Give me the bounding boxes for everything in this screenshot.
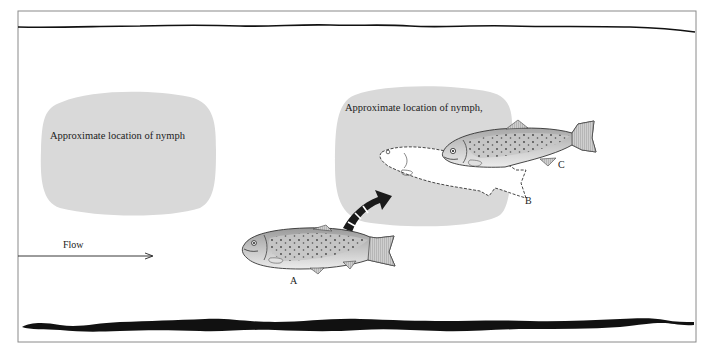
fish-a-label: A xyxy=(290,276,297,286)
trout-feeding-diagram: Approximate location of nymph Approximat… xyxy=(0,0,711,358)
fish-c-label: C xyxy=(558,160,565,170)
nymph-zone-left xyxy=(41,92,216,216)
nymph-zone-left-label: Approximate location of nymph xyxy=(50,131,185,142)
nymph-zone-right-label: Approximate location of nymph, xyxy=(345,103,483,114)
fish-b-label: B xyxy=(525,196,532,206)
diagram-canvas xyxy=(0,0,711,358)
flow-label: Flow xyxy=(63,240,84,250)
